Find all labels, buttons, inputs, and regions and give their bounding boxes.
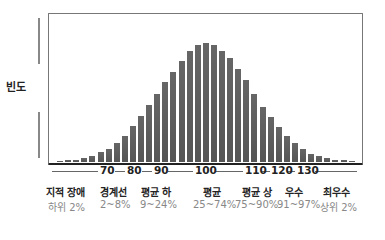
x-tick-90: 90 <box>154 164 169 176</box>
histogram-bar <box>235 69 241 162</box>
category-label: 최우수 <box>323 184 350 199</box>
category-label: 지적 장애 <box>46 184 85 199</box>
histogram-bar <box>81 158 87 162</box>
histogram-bar <box>268 117 274 162</box>
x-tick-120: 120 <box>271 164 293 176</box>
x-tick-70: 70 <box>100 164 115 176</box>
axis-segment <box>52 171 98 172</box>
axis-segment <box>168 171 193 172</box>
x-tick-80: 80 <box>127 164 142 176</box>
histogram-bar <box>251 94 257 162</box>
category-range: 25~74% <box>193 199 236 210</box>
histogram-bar <box>276 127 282 162</box>
histogram-bar <box>89 156 95 162</box>
x-tick-130: 130 <box>297 164 319 176</box>
histogram-bar <box>73 160 79 162</box>
histogram-bar <box>187 51 193 162</box>
histogram-bar <box>284 136 290 162</box>
axis-segment <box>115 171 125 172</box>
category-range: 9~24% <box>140 199 177 210</box>
histogram-bar <box>130 126 136 162</box>
histogram-bar <box>243 80 249 162</box>
histogram-bar <box>332 160 338 162</box>
axis-segment <box>142 171 152 172</box>
histogram-bar <box>292 143 298 162</box>
histogram-bar <box>300 149 306 162</box>
histogram-bar <box>122 136 128 162</box>
histogram-bar <box>65 160 71 162</box>
histogram-bar <box>227 58 233 162</box>
histogram-bar <box>138 116 144 162</box>
category-label: 평균 <box>203 184 221 199</box>
x-tick-110: 110 <box>245 164 267 176</box>
histogram-bar <box>146 105 152 162</box>
category-range: 91~97% <box>277 199 320 210</box>
axis-segment <box>315 171 357 172</box>
axis-segment <box>216 171 243 172</box>
histogram-bar <box>154 94 160 162</box>
histogram-bar <box>106 149 112 162</box>
category-label: 평균 상 <box>242 184 272 199</box>
histogram-bar <box>349 161 355 163</box>
histogram-bar <box>114 143 120 162</box>
category-label: 경계선 <box>100 184 127 199</box>
histogram-bar <box>324 158 330 162</box>
histogram-bar <box>170 72 176 162</box>
histogram-bar <box>308 154 314 162</box>
histogram-bar <box>260 107 266 162</box>
x-tick-100: 100 <box>195 164 217 176</box>
histogram-bar <box>316 156 322 162</box>
histogram-bar <box>219 51 225 162</box>
category-label: 우수 <box>285 184 303 199</box>
histogram-bar <box>162 82 168 162</box>
category-range: 75~90% <box>235 199 278 210</box>
category-range: 2~8% <box>100 199 131 210</box>
category-range: 상위 2% <box>320 199 357 214</box>
histogram-bar <box>211 45 217 162</box>
category-range: 하위 2% <box>48 199 85 214</box>
category-label: 평균 하 <box>141 184 171 199</box>
histogram-bar <box>341 160 347 162</box>
histogram-bar <box>57 161 63 163</box>
histogram-bar <box>203 43 209 162</box>
histogram-bar <box>98 152 104 162</box>
histogram-bar <box>195 45 201 162</box>
histogram-bar <box>179 61 185 162</box>
